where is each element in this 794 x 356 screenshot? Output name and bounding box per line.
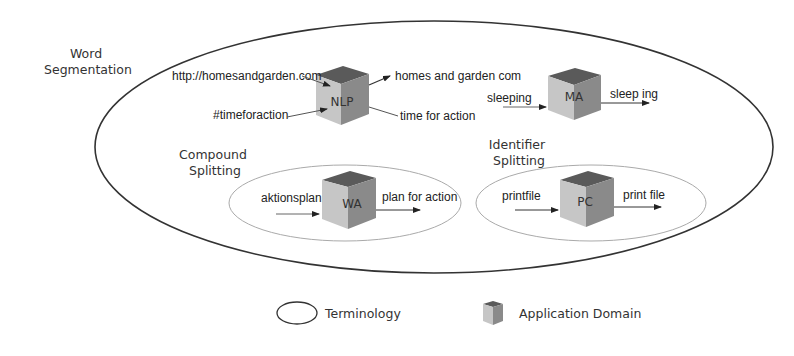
pc-output: print file [623, 188, 665, 202]
legend-application-domain-label: Application Domain [519, 306, 641, 321]
nlp-input-hashtag: #timeforaction [213, 108, 288, 122]
legend-terminology-label: Terminology [324, 306, 401, 321]
application-domain-legend-icon [483, 301, 503, 325]
nlp-output-hashtag: time for action [400, 109, 475, 123]
terminology-legend-icon [277, 302, 317, 324]
nlp-cube-label: NLP [331, 95, 354, 109]
pc-input: printfile [502, 189, 541, 203]
nlp-output-hashtag-arrow [369, 107, 398, 116]
wa-cube-label: WA [342, 197, 362, 211]
nlp-input-url: http://homesandgarden.com [172, 69, 321, 83]
ma-output: sleep ing [610, 87, 658, 101]
wa-input: aktionsplan [261, 191, 322, 205]
word-segmentation-label: Word Segmentation [44, 46, 132, 77]
ma-cube-label: MA [565, 90, 584, 104]
terminology-diagram: Word Segmentation Compound Splitting Ide… [0, 0, 794, 356]
nlp-output-url: homes and garden com [395, 69, 521, 83]
compound-splitting-label: Compound Splitting [179, 147, 251, 178]
pc-cube-label: PC [577, 195, 593, 209]
wa-output: plan for action [382, 190, 457, 204]
legend: Terminology Application Domain [277, 301, 641, 325]
nlp-output-url-arrow [369, 76, 390, 85]
identifier-splitting-label: Identifier Splitting [489, 137, 549, 168]
ma-input: sleeping [487, 91, 532, 105]
